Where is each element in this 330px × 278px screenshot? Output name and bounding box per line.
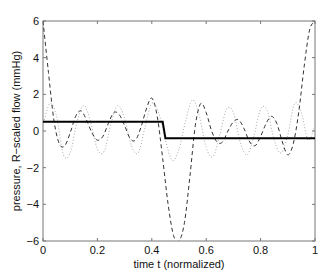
x-tick-label: 0.2: [90, 244, 105, 256]
y-tick-label: −2: [26, 162, 39, 174]
x-tick-labels: 00.20.40.60.81: [40, 244, 318, 256]
x-tick-label: 0: [40, 244, 46, 256]
chart: 00.20.40.60.81 −6−4−20246 time t (normal…: [0, 0, 330, 278]
x-tick-label: 0.6: [199, 244, 214, 256]
y-tick-label: 4: [33, 52, 39, 64]
x-tick-label: 0.8: [253, 244, 268, 256]
x-axis-label: time t (normalized): [133, 258, 224, 270]
y-tick-label: 0: [33, 125, 39, 137]
plot-area: [43, 21, 315, 242]
x-tick-label: 1: [312, 244, 318, 256]
y-tick-labels: −6−4−20246: [26, 15, 39, 247]
y-axis-label: pressure, R−scaled flow (mmHg): [10, 51, 22, 211]
axes-frame: [43, 21, 315, 241]
y-tick-label: −6: [26, 235, 39, 247]
y-tick-label: 2: [33, 88, 39, 100]
y-tick-label: −4: [26, 198, 39, 210]
x-tick-label: 0.4: [144, 244, 159, 256]
y-tick-label: 6: [33, 15, 39, 27]
